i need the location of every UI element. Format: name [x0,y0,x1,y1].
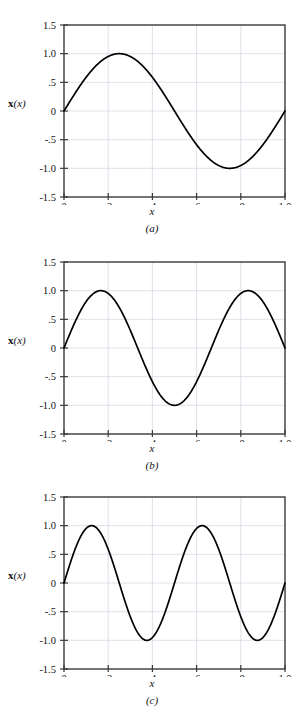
y-tick-label: -1.5 [39,429,56,440]
y-axis-label-c: x(x) [8,569,26,581]
y-tick-label: 1.5 [43,492,56,503]
y-axis-label-b: x(x) [8,334,26,346]
y-tick-label: -1.5 [39,664,56,675]
y-tick-label: 1.5 [43,257,56,268]
y-axis-label-a: x(x) [8,97,26,109]
plot-area-b: 1.51.0.50-.5-1.0-1.50.2.4.6.81.0 [0,237,304,442]
y-axis-label-b-rest: (x) [14,334,26,346]
y-tick-label: -.5 [45,371,56,382]
x-axis-label-a: x [0,205,304,217]
y-tick-label: -1.0 [39,400,56,411]
panel-caption-c: (c) [0,694,304,706]
y-tick-label: .5 [48,314,56,325]
y-tick-label: 0 [51,343,56,354]
y-axis-label-a-rest: (x) [14,97,26,109]
y-axis-label-c-rest: (x) [14,569,26,581]
panel-a: 1.51.0.50-.5-1.0-1.50.2.4.6.81.0 x(x) x … [0,0,304,240]
panel-caption-a: (a) [0,222,304,234]
y-tick-label: .5 [48,549,56,560]
y-tick-label: .5 [48,77,56,88]
panel-c: 1.51.0.50-.5-1.0-1.50.2.4.6.81.0 x(x) x … [0,472,304,722]
panel-b: 1.51.0.50-.5-1.0-1.50.2.4.6.81.0 x(x) x … [0,237,304,480]
y-tick-label: -1.0 [39,163,56,174]
y-tick-label: 1.5 [43,20,56,31]
figure-three-sine-modes: 1.51.0.50-.5-1.0-1.50.2.4.6.81.0 x(x) x … [0,0,304,722]
x-axis-label-b: x [0,442,304,454]
plot-area-a: 1.51.0.50-.5-1.0-1.50.2.4.6.81.0 [0,0,304,205]
y-tick-label: -1.0 [39,635,56,646]
y-tick-label: -.5 [45,606,56,617]
plot-area-c: 1.51.0.50-.5-1.0-1.50.2.4.6.81.0 [0,472,304,677]
y-tick-label: 1.0 [43,48,56,59]
y-tick-label: -.5 [45,134,56,145]
panel-caption-b: (b) [0,459,304,471]
y-tick-label: -1.5 [39,192,56,203]
x-axis-label-c: x [0,677,304,689]
y-tick-label: 0 [51,106,56,117]
y-tick-label: 1.0 [43,520,56,531]
y-tick-label: 0 [51,578,56,589]
y-tick-label: 1.0 [43,285,56,296]
